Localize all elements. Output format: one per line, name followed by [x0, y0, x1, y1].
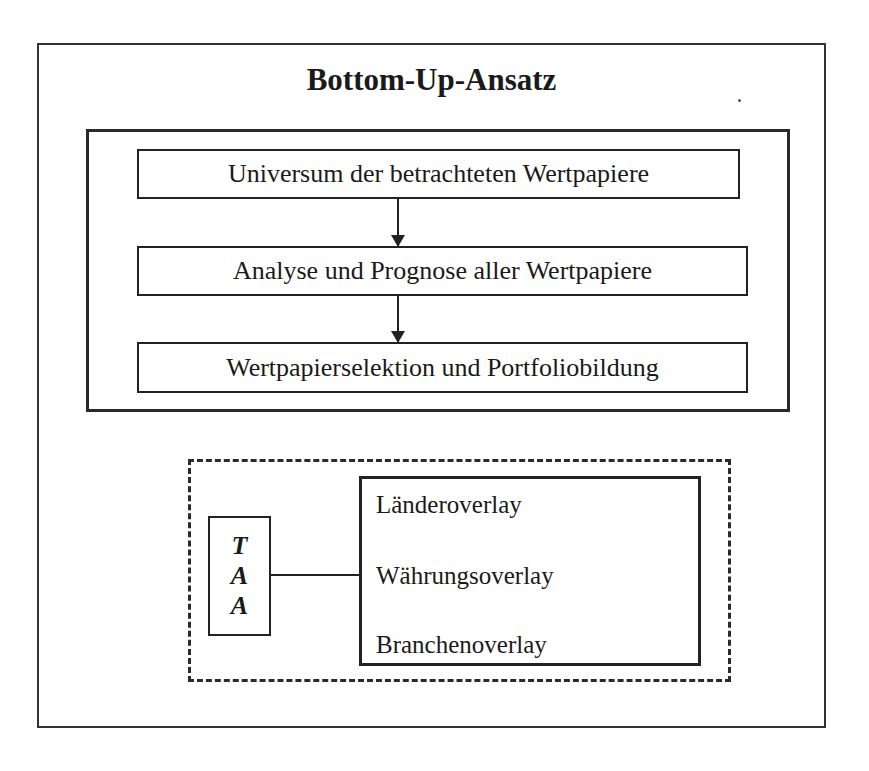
step-selection-label: Wertpapierselektion und Portfoliobildung: [226, 353, 659, 383]
overlay-item-sector: Branchenoverlay: [376, 631, 547, 659]
step-selection-box: Wertpapierselektion und Portfoliobildung: [137, 342, 748, 393]
taa-letter: A: [231, 591, 248, 621]
step-analysis-box: Analyse und Prognose aller Wertpapiere: [137, 246, 748, 296]
overlay-list-box: Länderoverlay Währungsoverlay Branchenov…: [359, 476, 701, 666]
overlay-item-countries: Länderoverlay: [376, 491, 522, 519]
overlay-item-currency: Währungsoverlay: [376, 562, 554, 590]
taa-letter: A: [231, 561, 248, 591]
taa-box: T A A: [208, 516, 271, 636]
arrow-down-icon: [397, 296, 399, 342]
step-universe-box: Universum der betrachteten Wertpapiere: [137, 149, 740, 199]
step-analysis-label: Analyse und Prognose aller Wertpapiere: [233, 256, 652, 286]
arrow-down-icon: [397, 199, 399, 246]
step-universe-label: Universum der betrachteten Wertpapiere: [228, 159, 649, 189]
diagram-title: Bottom-Up-Ansatz: [37, 62, 826, 98]
taa-letter: T: [232, 531, 248, 561]
scan-speck: [738, 99, 741, 102]
taa-connector-line: [271, 574, 360, 576]
